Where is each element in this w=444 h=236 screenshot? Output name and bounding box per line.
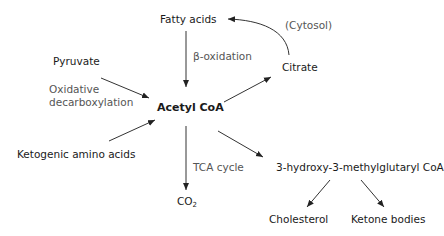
arrow-hmg-to-cholesterol [307, 180, 330, 207]
arrow-hmg-to-ketone [361, 180, 384, 207]
node-ketogenic-amino-acids: Ketogenic amino acids [17, 148, 135, 161]
label-tca-cycle: TCA cycle [193, 161, 244, 174]
node-fatty-acids: Fatty acids [160, 13, 217, 26]
arrow-acetyl-to-hmg [218, 131, 263, 157]
co2-subscript: 2 [193, 201, 197, 209]
label-decarboxylation: decarboxylation [49, 96, 133, 109]
node-citrate: Citrate [282, 61, 318, 74]
node-acetyl-coa: Acetyl CoA [157, 101, 224, 114]
arrow-ketogenic-to-acetyl [109, 120, 155, 141]
arrow-acetyl-to-citrate [224, 77, 271, 102]
node-pyruvate: Pyruvate [53, 55, 100, 68]
node-hmg-coa: 3-hydroxy-3-methylglutaryl CoA [276, 161, 444, 174]
label-cytosol: (Cytosol) [285, 19, 332, 32]
co2-text: CO [177, 195, 193, 207]
arrow-pyruvate-to-acetyl [101, 78, 149, 98]
node-ketone-bodies: Ketone bodies [351, 213, 425, 226]
label-oxidative: Oxidative [49, 83, 99, 96]
label-beta-oxidation: β-oxidation [193, 50, 252, 63]
node-co2: CO2 [177, 195, 197, 212]
node-cholesterol: Cholesterol [269, 213, 328, 226]
